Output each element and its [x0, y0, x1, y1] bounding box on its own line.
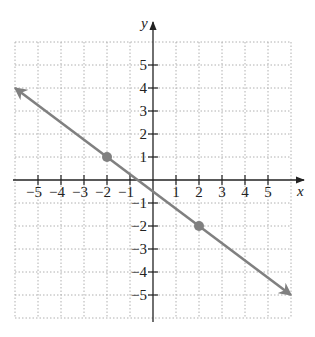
data-point — [102, 152, 112, 162]
y-tick-label: −2 — [131, 218, 147, 234]
x-tick-label: 4 — [241, 184, 249, 200]
y-tick-label: 5 — [140, 57, 148, 73]
y-tick-label: −4 — [131, 264, 147, 280]
x-tick-label: −3 — [72, 184, 88, 200]
x-tick-label: 3 — [218, 184, 226, 200]
y-tick-label: 1 — [140, 149, 148, 165]
y-tick-label: 4 — [140, 80, 148, 96]
x-tick-label: 1 — [172, 184, 180, 200]
y-tick-label: −3 — [131, 241, 147, 257]
data-point — [194, 221, 204, 231]
y-tick-label: −1 — [131, 195, 147, 211]
y-tick-label: 2 — [140, 126, 148, 142]
x-tick-label: 5 — [264, 184, 272, 200]
x-tick-label: 2 — [195, 184, 203, 200]
coordinate-plane: xy −5−4−3−2−112345−5−4−3−2−112345 — [0, 0, 315, 337]
y-tick-label: 3 — [140, 103, 148, 119]
x-tick-label: −2 — [95, 184, 111, 200]
x-tick-label: −5 — [26, 184, 42, 200]
x-tick-label: −4 — [49, 184, 65, 200]
y-axis-label: y — [139, 15, 148, 31]
x-axis-label: x — [296, 183, 304, 199]
axes: xy — [13, 15, 304, 322]
y-tick-label: −5 — [131, 287, 147, 303]
